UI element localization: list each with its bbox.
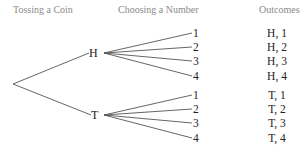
tails-number-2: 2: [193, 103, 199, 115]
heads-number-3: 3: [193, 55, 199, 67]
header-tossing-coin: Tossing a Coin: [13, 4, 73, 15]
header-outcomes: Outcomes: [259, 4, 300, 15]
outcome-t1: T, 1: [256, 89, 298, 101]
outcome-h2: H, 2: [256, 41, 298, 53]
tails-number-1: 1: [193, 89, 199, 101]
tails-number-3: 3: [193, 117, 199, 129]
node-heads: H: [89, 47, 98, 59]
node-tails: T: [91, 109, 98, 121]
outcome-h4: H, 4: [256, 70, 298, 82]
heads-number-2: 2: [193, 41, 199, 53]
outcome-t3: T, 3: [256, 117, 298, 129]
outcome-h1: H, 1: [256, 27, 298, 39]
header-choosing-number: Choosing a Number: [118, 4, 199, 15]
tails-number-4: 4: [193, 132, 199, 144]
outcome-h3: H, 3: [256, 55, 298, 67]
heads-number-4: 4: [193, 70, 199, 82]
heads-number-1: 1: [193, 27, 199, 39]
outcome-t4: T, 4: [256, 132, 298, 144]
outcome-t2: T, 2: [256, 103, 298, 115]
